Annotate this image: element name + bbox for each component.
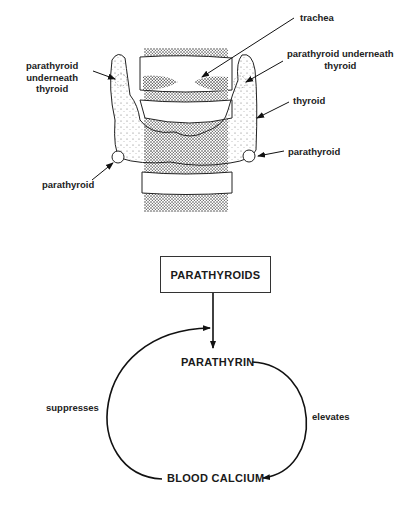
label-parathyroid-underneath-left: parathyroid underneath thyroid (26, 60, 78, 95)
node-blood-calcium: BLOOD CALCIUM (167, 472, 264, 484)
edge-label-elevates: elevates (312, 411, 350, 422)
label-trachea: trachea (300, 12, 334, 24)
edge-label-suppresses: suppresses (46, 402, 99, 413)
label-parathyroid-underneath-right: parathyroid underneath thyroid (287, 48, 394, 71)
label-line: thyroid (26, 83, 78, 95)
label-parathyroid-left: parathyroid (42, 179, 94, 191)
label-line: underneath (26, 72, 78, 84)
label-thyroid: thyroid (293, 95, 325, 107)
node-parathyrin: PARATHYRIN (181, 356, 254, 368)
label-parathyroid-right: parathyroid (288, 146, 340, 158)
label-line: parathyroid underneath (287, 48, 394, 60)
node-parathyroids: PARATHYROIDS (160, 256, 271, 293)
label-line: parathyroid (26, 60, 78, 72)
label-line: thyroid (287, 60, 394, 72)
